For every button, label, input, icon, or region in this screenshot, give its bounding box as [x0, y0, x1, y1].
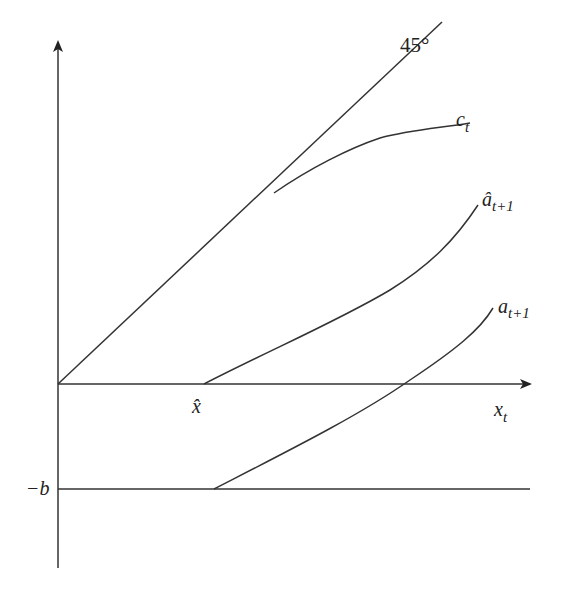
svg-text:ct: ct [456, 108, 470, 135]
svg-text:ât+1: ât+1 [482, 188, 514, 214]
forty-five-degree-label: 45° [400, 33, 429, 57]
consumption-label: ct [456, 108, 470, 135]
a-hat-next-curve [204, 205, 478, 384]
x-hat-tick-label: x̂ [191, 395, 201, 417]
svg-text:at+1: at+1 [498, 295, 530, 321]
a-next-label: at+1 [498, 295, 530, 321]
a-next-curve [214, 308, 493, 489]
consumption-curve [274, 123, 470, 193]
neg-b-tick-label: −b [26, 477, 50, 499]
forty-five-degree-line [58, 22, 442, 384]
svg-text:xt: xt [493, 398, 508, 425]
diagram-canvas: 45° ct ât+1 at+1 xt x̂ −b [0, 0, 561, 593]
x-axis-label: xt [493, 398, 508, 425]
a-hat-next-label: ât+1 [482, 188, 514, 214]
